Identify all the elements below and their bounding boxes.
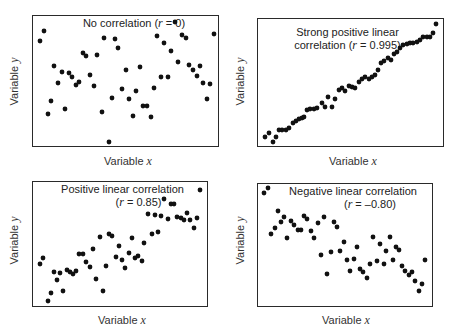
data-point (423, 258, 428, 263)
data-point (348, 269, 353, 274)
data-point (309, 229, 314, 234)
data-point (162, 41, 167, 46)
data-point (140, 259, 145, 264)
data-point (49, 291, 54, 296)
data-point (267, 131, 272, 136)
data-point (113, 37, 118, 42)
data-point (208, 82, 213, 87)
data-point (142, 241, 147, 246)
data-point (279, 220, 284, 225)
data-point (371, 235, 376, 240)
data-point (116, 46, 121, 51)
data-point (176, 60, 181, 65)
data-point (382, 59, 387, 64)
data-point (162, 197, 167, 202)
data-point (428, 35, 433, 40)
data-point (77, 80, 82, 85)
data-point (285, 236, 290, 241)
data-point (384, 249, 389, 254)
data-point (263, 135, 268, 140)
data-point (74, 269, 79, 274)
data-point (184, 36, 189, 41)
data-point (320, 101, 325, 106)
scatter-points-layer (0, 0, 450, 333)
data-point (123, 266, 128, 271)
data-point (329, 250, 334, 255)
data-point (299, 228, 304, 233)
data-point (400, 264, 405, 269)
data-point (353, 86, 358, 91)
data-point (338, 249, 343, 254)
data-point (388, 235, 393, 240)
data-point (373, 73, 378, 78)
data-point (110, 234, 115, 239)
panel-1-points (38, 20, 217, 145)
data-point (67, 71, 72, 76)
data-point (166, 217, 171, 222)
data-point (70, 75, 75, 80)
data-point (101, 289, 106, 294)
data-point (185, 211, 190, 216)
data-point (205, 97, 210, 102)
data-point (104, 264, 109, 269)
data-point (60, 70, 65, 75)
data-point (333, 97, 338, 102)
data-point (332, 220, 337, 225)
data-point (355, 245, 360, 250)
data-point (180, 33, 185, 38)
data-point (401, 43, 406, 48)
data-point (146, 212, 151, 217)
data-point (195, 216, 200, 221)
data-point (88, 73, 93, 78)
data-point (322, 215, 327, 220)
data-point (124, 68, 129, 73)
data-point (52, 64, 57, 69)
data-point (187, 63, 192, 68)
data-point (166, 75, 171, 80)
data-point (173, 20, 178, 25)
data-point (38, 262, 43, 267)
data-point (323, 105, 328, 110)
data-point (42, 29, 47, 34)
data-point (292, 223, 297, 228)
data-point (134, 89, 139, 94)
data-point (175, 215, 180, 220)
data-point (273, 226, 278, 231)
data-point (84, 260, 89, 265)
data-point (312, 236, 317, 241)
data-point (136, 254, 141, 259)
data-point (130, 236, 135, 241)
data-point (92, 84, 97, 89)
data-point (117, 244, 122, 249)
data-point (382, 262, 387, 267)
data-point (201, 81, 206, 86)
data-point (120, 87, 125, 92)
data-point (149, 115, 154, 120)
panel-2-points (263, 22, 439, 145)
data-point (155, 34, 160, 39)
data-point (282, 215, 287, 220)
data-point (397, 248, 402, 253)
data-point (326, 95, 331, 100)
data-point (316, 221, 321, 226)
data-point (46, 299, 51, 304)
data-point (352, 257, 357, 262)
data-point (212, 32, 217, 37)
data-point (434, 22, 439, 27)
data-point (88, 265, 93, 270)
data-point (182, 218, 187, 223)
data-point (46, 112, 51, 117)
data-point (305, 217, 310, 222)
data-point (98, 235, 103, 240)
data-point (84, 54, 89, 59)
data-point (188, 218, 193, 223)
data-point (169, 49, 174, 54)
panel-3-points (38, 188, 203, 304)
data-point (120, 258, 125, 263)
data-point (94, 277, 99, 282)
data-point (95, 53, 100, 58)
data-point (403, 269, 408, 274)
data-point (172, 202, 177, 207)
data-point (417, 289, 422, 294)
data-point (38, 39, 43, 44)
